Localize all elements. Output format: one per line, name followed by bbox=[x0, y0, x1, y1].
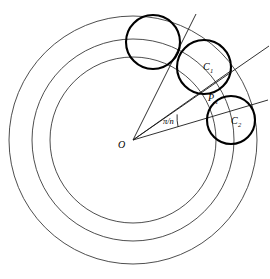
label-point-P1-subscript: 1 bbox=[215, 98, 218, 105]
angle-arc bbox=[177, 114, 178, 127]
label-circle-2-subscript: 2 bbox=[238, 121, 242, 128]
ray-to-circle-2-center bbox=[133, 100, 268, 140]
ray-through-tangency bbox=[133, 70, 232, 140]
label-circle-2: C bbox=[231, 115, 238, 126]
geometry-canvas: O C 1 P 1 C 2 π/n bbox=[0, 0, 270, 279]
geometry-figure: O C 1 P 1 C 2 π/n bbox=[0, 0, 270, 279]
tangent-circle-0 bbox=[126, 15, 180, 69]
label-angle-pi-over-n: π/n bbox=[163, 116, 174, 126]
label-circle-1-subscript: 1 bbox=[210, 67, 213, 74]
label-center-O: O bbox=[118, 139, 125, 150]
label-point-P1: P bbox=[207, 92, 214, 103]
label-circle-1: C bbox=[203, 61, 210, 72]
